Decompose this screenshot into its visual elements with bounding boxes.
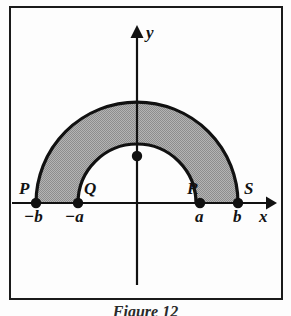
label-point-Q: Q (84, 180, 96, 197)
figure-drawing (0, 0, 291, 316)
figure-caption: Figure 12 (0, 303, 291, 316)
tick-label-minus-b: −b (24, 208, 43, 225)
label-point-S: S (244, 180, 253, 197)
label-point-R: R (187, 180, 198, 197)
tick-label-b: b (233, 208, 242, 225)
figure-container: P Q R S −b −a a b x y Figure 12 (0, 0, 291, 316)
origin-center-dot (132, 151, 142, 161)
x-axis-label: x (259, 208, 268, 225)
tick-label-a: a (195, 208, 204, 225)
y-axis-arrowhead (131, 25, 144, 38)
label-point-P: P (19, 180, 29, 197)
y-axis-label: y (146, 24, 154, 41)
tick-label-minus-a: −a (65, 208, 84, 225)
